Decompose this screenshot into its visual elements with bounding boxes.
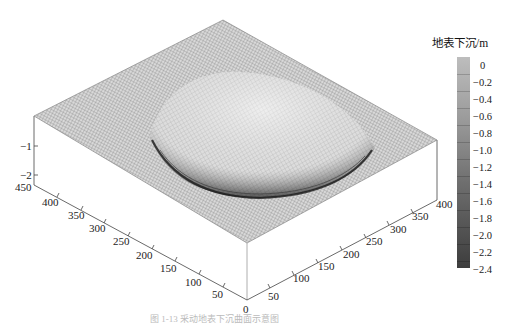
colorbar-tick: −1.8	[473, 213, 492, 224]
x-tick-label: 200	[343, 248, 360, 260]
colorbar-tick: −1.2	[473, 162, 492, 173]
colorbar-title: 地表下沉/m	[432, 34, 488, 50]
colorbar-tick: −0.2	[473, 77, 492, 88]
y-tick-label: 400	[42, 196, 59, 208]
colorbar-tick: 0	[480, 60, 485, 71]
colorbar-tick: −2.4	[473, 264, 492, 275]
y-tick-label: 250	[113, 235, 130, 247]
x-tick-label: 400	[436, 198, 453, 210]
x-tick-label: 100	[293, 272, 310, 284]
y-tick-label: 300	[89, 222, 106, 234]
colorbar-tick: −1.0	[473, 145, 492, 156]
y-tick-label: 100	[185, 276, 202, 288]
x-tick-label: 250	[366, 235, 383, 247]
colorbar-tick: −2.2	[473, 247, 492, 258]
z-tick-label: −1	[20, 140, 32, 152]
colorbar-tick: −0.4	[473, 94, 492, 105]
x-tick-label: 350	[412, 210, 429, 222]
colorbar-tick: −1.6	[473, 196, 492, 207]
colorbar	[457, 57, 470, 268]
x-tick-label: 50	[268, 290, 280, 302]
colorbar-tick: −0.8	[473, 128, 492, 139]
colorbar-tick: −1.4	[473, 179, 492, 190]
y-tick-label: 150	[160, 262, 177, 274]
y-tick-label: 50	[212, 288, 224, 300]
z-tick-label: −2	[20, 169, 32, 181]
colorbar-tick: −0.6	[473, 111, 492, 122]
z-axis: −1 −2	[20, 140, 38, 181]
colorbar-tick: −2.0	[473, 230, 492, 241]
y-tick-label: 350	[68, 209, 85, 221]
figure-caption: 图 1-13 采动地表下沉曲面示意图	[150, 312, 279, 325]
mesh-surface	[34, 20, 437, 243]
x-tick-label: 300	[390, 223, 407, 235]
x-tick-label: 150	[318, 260, 335, 272]
y-tick-label: 450	[15, 181, 32, 193]
y-tick-label: 200	[136, 249, 153, 261]
